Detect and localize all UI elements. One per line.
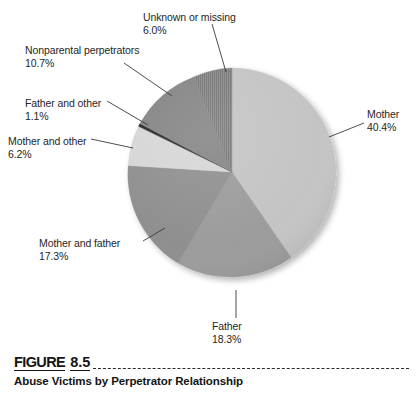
pie-label-value: 6.2% <box>8 148 86 161</box>
figure-word: FIGURE <box>14 355 65 371</box>
pie-label-father: Father 18.3% <box>212 320 242 346</box>
pie-label-value: 10.7% <box>25 57 139 70</box>
pie-label-value: 17.3% <box>39 250 120 263</box>
pie-label-value: 6.0% <box>143 24 236 37</box>
pie-label-value: 18.3% <box>212 333 242 346</box>
pie-label-name: Mother and father <box>39 237 120 250</box>
pie-label-name: Father <box>212 320 242 333</box>
figure-container: Unknown or missing 6.0% Nonparental perp… <box>0 0 417 394</box>
pie-chart: Unknown or missing 6.0% Nonparental perp… <box>0 0 417 348</box>
pie-label-nonparental-perpetrators: Nonparental perpetrators 10.7% <box>25 44 139 70</box>
pie-label-mother-and-father: Mother and father 17.3% <box>39 237 120 263</box>
leader-line-father-and-other <box>107 101 148 125</box>
pie-label-mother-and-other: Mother and other 6.2% <box>8 135 86 161</box>
leader-line-mother-and-other <box>91 139 133 148</box>
pie-label-value: 1.1% <box>25 110 101 123</box>
leader-line-mother <box>329 123 364 137</box>
pie-label-name: Unknown or missing <box>143 11 236 24</box>
pie-label-mother: Mother 40.4% <box>367 108 399 134</box>
figure-number-row: FIGURE 8.5 <box>14 353 409 371</box>
figure-caption-block: FIGURE 8.5 Abuse Victims by Perpetrator … <box>14 353 409 391</box>
pie-label-name: Nonparental perpetrators <box>25 44 139 57</box>
pie-label-name: Mother and other <box>8 135 86 148</box>
pie-label-name: Father and other <box>25 97 101 110</box>
pie-label-unknown-or-missing: Unknown or missing 6.0% <box>143 11 236 37</box>
pie-shading-overlay <box>128 68 336 276</box>
figure-number: 8.5 <box>70 355 90 371</box>
figure-caption-text: Abuse Victims by Perpetrator Relationshi… <box>14 375 409 387</box>
pie-label-value: 40.4% <box>367 121 399 134</box>
pie-label-father-and-other: Father and other 1.1% <box>25 97 101 123</box>
pie-slices-group <box>128 68 336 277</box>
caption-dashed-rule <box>93 368 409 369</box>
pie-label-name: Mother <box>367 108 399 121</box>
